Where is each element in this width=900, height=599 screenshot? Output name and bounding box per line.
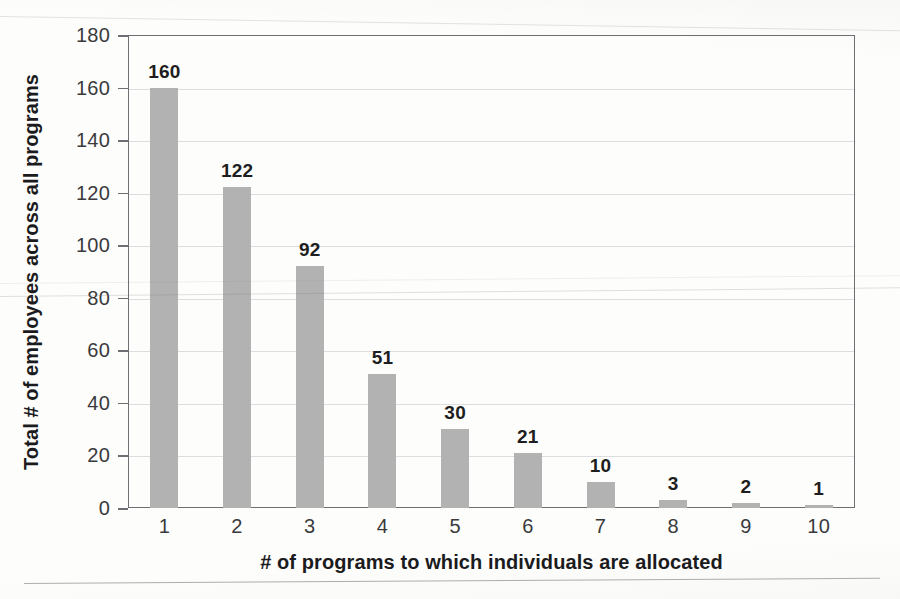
y-axis-tick (118, 245, 128, 247)
y-axis-tick-label: 80 (48, 286, 110, 309)
x-axis-tick-label: 9 (710, 515, 783, 538)
bar[interactable] (296, 266, 324, 508)
y-axis-title-text: Total # of employees across all programs (20, 74, 43, 470)
bar-slot: 122 (201, 35, 274, 508)
bar-chart-figure: Total # of employees across all programs… (0, 0, 900, 599)
bar-series: 1601229251302110321 (128, 35, 855, 508)
bar-slot: 10 (564, 35, 637, 508)
y-axis-tick (118, 455, 128, 457)
x-axis-tick-label: 8 (637, 515, 710, 538)
bar-value-label: 122 (221, 160, 253, 182)
y-axis-tick (118, 140, 128, 142)
bar[interactable] (150, 88, 178, 508)
bar-slot: 160 (128, 35, 201, 508)
bar[interactable] (587, 482, 615, 508)
bar-value-label: 51 (372, 347, 394, 369)
bar[interactable] (805, 505, 833, 508)
y-axis-tick (118, 508, 128, 510)
bar[interactable] (223, 187, 251, 508)
bar-value-label: 3 (668, 473, 679, 495)
x-axis-tick-label: 3 (273, 515, 346, 538)
bar-value-label: 1 (813, 478, 824, 500)
y-axis-tick-label: 120 (48, 181, 110, 204)
x-axis-tick-label: 4 (346, 515, 419, 538)
bar-slot: 1 (782, 35, 855, 508)
y-axis-tick (118, 35, 128, 37)
bar-slot: 21 (492, 35, 565, 508)
bar[interactable] (441, 429, 469, 508)
bar-slot: 2 (710, 35, 783, 508)
y-axis-tick-label: 180 (48, 24, 110, 47)
bar-slot: 92 (273, 35, 346, 508)
y-axis-tick (118, 298, 128, 300)
bar[interactable] (659, 500, 687, 508)
y-axis-tick-label: 20 (48, 444, 110, 467)
y-axis-tick (118, 350, 128, 352)
bar-value-label: 92 (299, 239, 321, 261)
y-axis-tick-label: 60 (48, 339, 110, 362)
x-axis-tick-label: 6 (492, 515, 565, 538)
y-axis-title: Total # of employees across all programs (16, 35, 46, 508)
y-axis-tick-label: 160 (48, 76, 110, 99)
bar[interactable] (514, 453, 542, 508)
x-axis-tick-label: 2 (201, 515, 274, 538)
bar-value-label: 30 (444, 402, 466, 424)
bar[interactable] (368, 374, 396, 508)
y-axis-tick-label: 100 (48, 234, 110, 257)
y-axis-tick-label: 140 (48, 129, 110, 152)
bar-value-label: 10 (590, 455, 612, 477)
bar-value-label: 160 (148, 61, 180, 83)
x-axis-tick-label: 1 (128, 515, 201, 538)
x-axis-title: # of programs to which individuals are a… (128, 551, 855, 574)
y-axis-tick (118, 193, 128, 195)
y-axis-tick-label: 40 (48, 391, 110, 414)
x-axis-tick-label: 10 (782, 515, 855, 538)
y-axis-tick (118, 88, 128, 90)
y-axis-tick (118, 403, 128, 405)
bar-slot: 51 (346, 35, 419, 508)
y-axis-tick-label: 0 (48, 497, 110, 520)
bar-slot: 30 (419, 35, 492, 508)
bar[interactable] (732, 503, 760, 508)
bar-slot: 3 (637, 35, 710, 508)
x-axis-tick-label: 7 (564, 515, 637, 538)
bar-value-label: 21 (517, 426, 539, 448)
x-axis-tick-label: 5 (419, 515, 492, 538)
bar-value-label: 2 (741, 476, 752, 498)
